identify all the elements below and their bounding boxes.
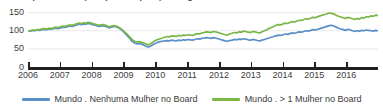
x-tick: [155, 62, 157, 68]
gridlines: [28, 13, 378, 49]
chart-title: Desempenho das ações por composição de g…: [4, 0, 374, 3]
x-tick-label: 2011: [177, 71, 196, 80]
x-tick: [123, 62, 125, 68]
x-axis-labels: 2006200720082009201020112012201320142015…: [28, 71, 380, 84]
x-tick: [187, 62, 189, 68]
legend-item[interactable]: Mundo . Nenhuma Mulher no Board: [22, 95, 198, 104]
stock-performance-line-chart: Desempenho das ações por composição de g…: [0, 0, 383, 111]
x-tick-label: 2007: [50, 71, 70, 80]
x-tick-label: 2010: [145, 71, 165, 80]
x-tick-label: 2009: [113, 71, 133, 80]
x-tick-label: 2008: [82, 71, 102, 80]
legend-label: Mundo . Nenhuma Mulher no Board: [55, 95, 198, 104]
x-axis-line: [28, 67, 378, 70]
y-tick-label: 50: [0, 44, 24, 53]
x-tick: [314, 62, 316, 68]
x-tick-label: 2015: [304, 71, 324, 80]
x-tick: [346, 62, 348, 68]
x-tick: [92, 62, 94, 68]
x-tick-label: 2016: [336, 71, 356, 80]
x-tick-label: 2012: [209, 71, 229, 80]
series-line: [28, 13, 378, 45]
plot-area: [28, 9, 378, 67]
chart-legend: Mundo . Nenhuma Mulher no BoardMundo . >…: [0, 92, 383, 107]
legend-color-swatch: [22, 98, 50, 100]
legend-item[interactable]: Mundo . > 1 Mulher no Board: [212, 95, 362, 104]
x-tick-label: 2013: [241, 71, 261, 80]
plot-svg: [28, 9, 378, 67]
series-line: [28, 24, 378, 48]
x-tick-label: 2006: [18, 71, 38, 80]
x-tick-label: 2014: [273, 71, 293, 80]
y-tick-label: 100: [0, 26, 24, 35]
x-tick: [283, 62, 285, 68]
x-tick: [219, 62, 221, 68]
legend-color-swatch: [212, 98, 240, 100]
x-tick: [60, 62, 62, 68]
x-tick: [28, 62, 30, 68]
x-tick: [251, 62, 253, 68]
legend-label: Mundo . > 1 Mulher no Board: [245, 95, 362, 104]
series-paths: [28, 13, 378, 47]
y-tick-label: 150: [0, 8, 24, 17]
